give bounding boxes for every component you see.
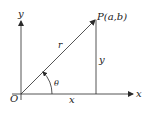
- angle-label: θ: [54, 79, 59, 88]
- y-axis-label: y: [17, 8, 24, 19]
- origin-label: O: [10, 93, 18, 104]
- polar-coordinates-diagram: y x O P(a,b) r θ y x: [0, 0, 150, 117]
- radius-label: r: [58, 40, 63, 50]
- angle-arc: [43, 72, 52, 94]
- horizontal-leg-label: x: [69, 94, 75, 105]
- x-axis-label: x: [136, 88, 142, 99]
- vertical-leg-label: y: [98, 54, 105, 65]
- point-label: P(a,b): [96, 11, 127, 22]
